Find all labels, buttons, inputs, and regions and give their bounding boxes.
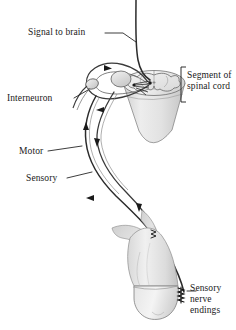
label-segment-of-spinal-cord: Segment of spinal cord [187,70,232,92]
label-motor: Motor [19,146,43,157]
label-signal-to-brain: Signal to brain [28,27,85,38]
figure-canvas: Signal to brain Interneuron Motor Sensor… [0,0,236,330]
reflex-arc-diagram [0,0,236,330]
leader-motor [48,146,82,151]
arrow-sensory-ascending [86,195,94,201]
dorsal-root-ganglion [111,71,131,87]
label-sensory-nerve-endings: Sensory nerve endings [190,283,221,316]
arrow-motor-down [94,138,100,147]
arrow-sensory-up [83,122,89,130]
leader-sensory [67,172,92,178]
arrow-motor-to-finger [136,203,142,212]
ascending-nerve-to-brain [136,0,150,80]
arrow-interneuron-top [104,65,112,71]
arrow-interneuron-bottom [96,107,104,113]
sensory-nerve-endings [178,287,184,303]
label-sensory: Sensory [26,173,57,184]
finger [112,210,184,319]
leader-interneuron [74,90,88,98]
spinal-cord-segment [123,71,185,143]
leader-signal-to-brain [105,33,136,42]
fingertip [134,286,178,319]
label-interneuron: Interneuron [7,93,52,104]
finger-shaft [128,228,178,286]
